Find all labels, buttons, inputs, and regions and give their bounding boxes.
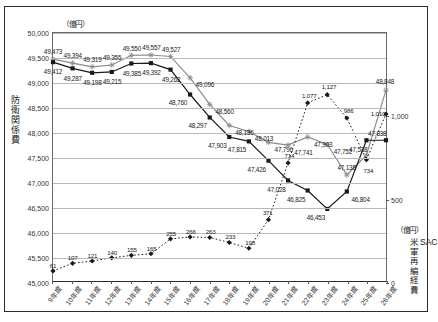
data-point-label: 49,473 <box>44 48 62 55</box>
x-axis-tick-label: 13年度 <box>121 284 142 307</box>
data-point-marker <box>129 61 133 65</box>
data-point-marker <box>305 100 310 105</box>
data-point-label: 48,297 <box>188 122 206 129</box>
defense-budget-line-chart: （億円） 防衛関係費 （億円） 米軍再編経費 SACO 45,00045,500… <box>0 0 438 322</box>
data-point-label: 49,394 <box>64 52 82 59</box>
data-point-label: 48,560 <box>215 108 233 115</box>
x-axis-tick-label: 12年度 <box>102 284 123 307</box>
x-axis-tickmark <box>170 281 171 284</box>
x-axis-tick-label: 14年度 <box>141 284 162 307</box>
x-axis-tickmark <box>229 281 230 284</box>
y-axis-tick-label-left: 46,500 <box>28 205 49 212</box>
data-point-label: 734 <box>363 166 373 173</box>
x-axis-tick-label: 15年度 <box>161 284 182 307</box>
x-axis-tickmark <box>72 281 73 284</box>
data-point-marker <box>208 115 212 119</box>
data-point-marker <box>305 134 311 140</box>
data-point-marker <box>207 235 212 240</box>
data-point-label: 107 <box>68 254 78 261</box>
data-point-marker <box>306 188 310 192</box>
data-point-label: 255 <box>166 229 176 236</box>
data-point-label: 140 <box>107 248 117 255</box>
data-point-label: 61 <box>50 261 56 268</box>
data-point-marker <box>383 87 389 93</box>
series-line <box>53 55 386 175</box>
y-axis-tick-label-left: 46,000 <box>28 230 49 237</box>
data-point-marker <box>227 135 231 139</box>
x-axis-tickmark <box>91 281 92 284</box>
x-axis-tick-label: 10年度 <box>62 284 83 307</box>
right-axis-title-saco: SACO <box>420 238 430 247</box>
gridline <box>53 158 386 159</box>
data-point-label: 47,538 <box>349 146 367 153</box>
data-point-marker <box>71 66 75 70</box>
x-axis-tickmark <box>210 281 211 284</box>
data-point-marker <box>266 217 271 222</box>
data-point-label: 49,287 <box>64 74 82 81</box>
data-point-label: 47,138 <box>337 164 355 171</box>
data-point-marker <box>168 68 172 72</box>
gridline <box>53 33 386 34</box>
data-point-marker <box>247 139 251 143</box>
left-axis-unit-label: （億円） <box>62 18 89 29</box>
data-point-marker <box>89 64 95 70</box>
x-axis-labels: 9年度10年度11年度12年度13年度14年度15年度16年度17年度18年度1… <box>52 284 387 322</box>
gridline <box>53 183 386 184</box>
data-point-label: 371 <box>263 209 273 216</box>
y-axis-tick-label-left: 49,000 <box>28 80 49 87</box>
data-point-label: 47,741 <box>294 148 312 155</box>
x-axis-tick-label: 18年度 <box>220 284 241 307</box>
x-axis-tickmark <box>151 281 152 284</box>
x-axis-tickmark <box>190 281 191 284</box>
data-point-label: 49,385 <box>123 69 141 76</box>
data-point-marker <box>70 60 76 66</box>
x-axis-tick-label: 22年度 <box>299 284 320 307</box>
data-point-label: 155 <box>127 246 137 253</box>
data-point-marker <box>364 138 368 142</box>
x-axis-tick-label: 23年度 <box>318 284 339 307</box>
gridline <box>53 233 386 234</box>
data-point-label: 986 <box>344 106 354 113</box>
data-point-label: 714 <box>285 152 295 159</box>
data-point-marker <box>285 160 290 165</box>
x-axis-tickmark <box>269 281 270 284</box>
x-axis-tickmark <box>249 281 250 284</box>
data-point-marker <box>70 261 75 266</box>
x-axis-tick-label: 25年度 <box>358 284 379 307</box>
x-axis-tickmark <box>387 281 388 284</box>
x-axis-tickmark <box>288 281 289 284</box>
data-point-label: 49,096 <box>196 81 214 88</box>
data-point-marker <box>50 268 55 273</box>
data-point-marker <box>344 172 350 178</box>
y-axis-tick-label-left: 47,000 <box>28 180 49 187</box>
data-point-label: 47,426 <box>248 165 266 172</box>
data-point-label: 47,028 <box>267 185 285 192</box>
x-axis-tickmark <box>348 281 349 284</box>
data-point-label: 47,838 <box>368 130 386 137</box>
data-point-label: 48,136 <box>235 129 253 136</box>
data-point-label: 49,412 <box>44 68 62 75</box>
data-point-label: 47,815 <box>228 146 246 153</box>
data-point-label: 233 <box>225 233 235 240</box>
x-axis-tickmark <box>131 281 132 284</box>
x-axis-tick-label: 17年度 <box>200 284 221 307</box>
data-point-marker <box>148 52 154 58</box>
x-axis-tick-label: 16年度 <box>181 284 202 307</box>
y-axis-tick-label-left: 45,500 <box>28 255 49 262</box>
x-axis-tickmark <box>52 281 53 284</box>
data-point-label: 48,760 <box>169 99 187 106</box>
data-point-marker <box>109 62 115 68</box>
data-point-label: 49,527 <box>162 45 180 52</box>
data-point-label: 263 <box>206 228 216 235</box>
gridline <box>53 258 386 259</box>
gridline <box>53 208 386 209</box>
data-point-label: 1,127 <box>322 83 336 90</box>
data-point-marker <box>345 189 349 193</box>
right-axis-title: 米軍再編経費 <box>408 238 418 295</box>
data-point-label: 165 <box>147 244 157 251</box>
data-point-label: 266 <box>186 227 196 234</box>
x-axis-tick-label: 24年度 <box>338 284 359 307</box>
data-point-label: 121 <box>88 251 98 258</box>
x-axis-tick-label: 20年度 <box>259 284 280 307</box>
y-axis-tick-label-right: 500 <box>391 196 403 203</box>
